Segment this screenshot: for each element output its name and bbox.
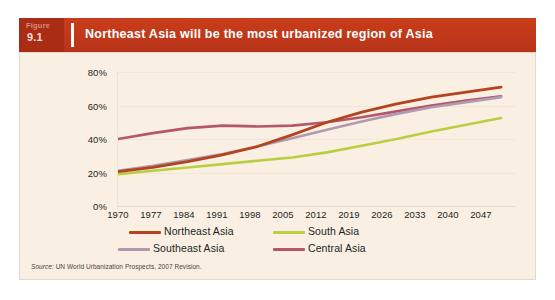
legend-label-southeast-asia: Southeast Asia — [153, 242, 224, 254]
chart-series-layer — [118, 72, 518, 208]
source-prefix: Source: — [31, 263, 54, 270]
chart-legend: Northeast Asia South Asia Southeast Asia… — [118, 225, 518, 259]
legend-swatch-central-asia — [273, 248, 305, 251]
legend-label-south-asia: South Asia — [308, 225, 359, 237]
figure-header-banner: Figure 9.1 Northeast Asia will be the mo… — [19, 18, 536, 52]
series-line-south-asia — [118, 118, 501, 174]
source-note: Source: UN World Urbanization Prospects,… — [31, 263, 202, 270]
y-tick-label-80: 80% — [61, 67, 107, 78]
figure-page: · · · · · · ·· · · Figure 9.1 Northeast … — [0, 0, 555, 300]
x-tick-label-2047: 2047 — [461, 209, 501, 220]
figure-number-box: Figure 9.1 — [19, 18, 64, 52]
y-tick-label-20: 20% — [61, 168, 107, 179]
source-text: UN World Urbanization Prospects, 2007 Re… — [56, 263, 202, 270]
figure-word-label: Figure — [26, 21, 50, 30]
legend-swatch-south-asia — [273, 231, 305, 234]
banner-divider — [71, 23, 74, 47]
page-top-cutoff-text: · · · · · · ·· · · — [140, 0, 184, 2]
series-line-southeast-asia — [118, 97, 501, 171]
figure-number-label: 9.1 — [27, 31, 43, 43]
chart-panel: 80% 60% 40% 20% 0% 1970 1977 1984 1991 1… — [19, 52, 536, 280]
figure-title: Northeast Asia will be the most urbanize… — [85, 27, 433, 41]
series-line-central-asia — [118, 96, 501, 139]
legend-swatch-southeast-asia — [118, 248, 150, 251]
legend-swatch-northeast-asia — [129, 231, 161, 234]
legend-label-northeast-asia: Northeast Asia — [164, 225, 234, 237]
y-tick-label-60: 60% — [61, 101, 107, 112]
page-top-edge: · · · · · · ·· · · — [0, 0, 555, 10]
y-tick-label-40: 40% — [61, 134, 107, 145]
legend-label-central-asia: Central Asia — [308, 242, 366, 254]
